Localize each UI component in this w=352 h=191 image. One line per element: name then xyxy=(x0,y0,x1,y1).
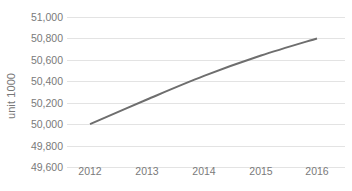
x-axis-tick-labels: 20122013201420152016 xyxy=(0,0,352,191)
x-tick-label: 2016 xyxy=(294,165,340,177)
x-tick-label: 2013 xyxy=(124,165,170,177)
line-chart: unit 1000 51,00050,80050,60050,40050,200… xyxy=(0,0,352,191)
x-tick-label: 2012 xyxy=(67,165,113,177)
x-tick-label: 2015 xyxy=(238,165,284,177)
x-tick-label: 2014 xyxy=(181,165,227,177)
